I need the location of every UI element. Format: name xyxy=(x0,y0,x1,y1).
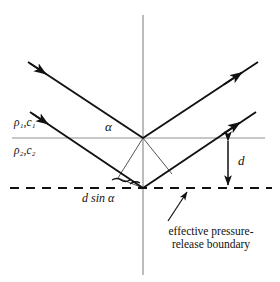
boundary-caption-line-1: effective pressure- xyxy=(168,225,253,237)
boundary-caption-line-2: release boundary xyxy=(172,238,250,250)
label-medium-upper: ρ₁,c₁ xyxy=(14,116,36,129)
incident-ray-upper-arrow xyxy=(30,63,46,74)
boundary-callout-arrow xyxy=(168,192,187,221)
reflected-ray-upper-arrow xyxy=(224,73,242,85)
label-depth-d: d xyxy=(238,154,245,169)
label-medium-lower: ρ₂,c₂ xyxy=(14,144,36,157)
construction-leg-left xyxy=(118,138,143,178)
label-path-difference: d sin α xyxy=(82,192,114,205)
label-angle-alpha: α xyxy=(105,120,112,135)
label-effective-boundary: effective pressure- release boundary xyxy=(150,225,272,251)
reflected-ray-lower-arrow xyxy=(222,123,240,135)
construction-leg-right xyxy=(143,138,172,174)
